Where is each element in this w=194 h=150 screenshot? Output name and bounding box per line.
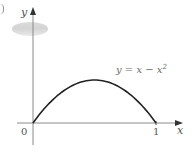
equation-exponent: 2 [162,63,166,71]
function-graph: y 0 1 x y = x − x2 [0,0,194,150]
y-axis-arrow-icon [30,7,36,15]
plot-area [0,0,194,150]
y-axis-label: y [21,7,27,18]
equation-text: y = x − x [116,64,162,75]
x-axis-label: x [177,125,183,136]
origin-label: 0 [21,127,27,137]
curve-y-equals-x-minus-x-squared [33,80,156,123]
equation-label: y = x − x2 [116,64,167,75]
x-tick-label-1: 1 [153,127,159,137]
